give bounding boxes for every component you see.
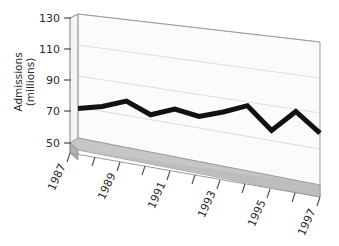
x-tick-label-1989: 1989	[95, 171, 119, 202]
x-tick-1995	[267, 189, 270, 198]
y-tick-label-130: 130	[39, 12, 60, 25]
y-axis-title-line2: (millions)	[24, 58, 36, 107]
y-axis-tick-labels: 130 110 90 70 50	[39, 12, 60, 150]
x-tick-1991	[167, 171, 170, 180]
y-tick-label-90: 90	[46, 74, 60, 87]
y-tick-label-50: 50	[46, 137, 60, 150]
x-tick-label-1993: 1993	[195, 189, 219, 220]
chart-container: 130 110 90 70 50 Admissions (millions)	[0, 0, 339, 246]
x-tick-1992	[192, 175, 195, 184]
x-tick-label-1991: 1991	[145, 180, 169, 211]
x-tick-label-1997: 1997	[295, 207, 319, 238]
y-axis-title: Admissions (millions)	[12, 52, 36, 111]
line-chart-3d: 130 110 90 70 50 Admissions (millions)	[0, 0, 339, 246]
x-tick-1988	[92, 157, 95, 166]
x-tick-label-1987: 1987	[45, 162, 69, 193]
x-tick-1987	[67, 153, 70, 162]
x-tick-1993	[217, 180, 220, 189]
x-tick-1994	[242, 184, 245, 193]
chart-left-wall	[70, 14, 78, 143]
y-tick-label-110: 110	[39, 43, 60, 56]
x-tick-1989	[117, 162, 120, 171]
y-tick-label-70: 70	[46, 105, 60, 118]
y-axis-title-line1: Admissions	[12, 52, 24, 111]
chart-back-wall	[78, 14, 320, 185]
x-tick-1990	[142, 166, 145, 175]
x-tick-1997	[317, 197, 320, 206]
x-tick-label-1995: 1995	[245, 198, 269, 229]
x-tick-1996	[292, 193, 295, 202]
